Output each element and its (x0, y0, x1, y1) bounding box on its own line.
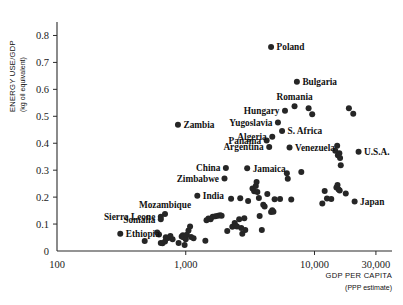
y-axis-title: ENERGY USE/GDP (kg oil equivalent) (8, 40, 27, 112)
data-point (298, 169, 304, 175)
y-ticks-group: 00.10.20.30.40.50.60.70.8 (36, 30, 57, 257)
point-label: Jamaica (253, 164, 286, 174)
data-point (309, 111, 315, 117)
data-point (224, 228, 230, 234)
data-point-labeled (292, 103, 298, 109)
x-axis-title-main: GDP PER CAPITA (325, 271, 392, 280)
y-axis-title-main: ENERGY USE/GDP (8, 40, 17, 112)
point-label: Zambia (183, 120, 214, 130)
data-point (242, 227, 248, 233)
data-point-labeled (356, 149, 362, 155)
data-point-labeled (117, 231, 123, 237)
data-point (337, 155, 343, 161)
y-tick-label: 0.2 (36, 192, 49, 203)
data-point (254, 189, 260, 195)
y-tick-label: 0.7 (36, 57, 49, 68)
y-tick-label: 0 (44, 246, 49, 257)
data-point (202, 238, 208, 244)
data-point (288, 197, 294, 203)
x-ticks-group: 1001,00010,00030,000 (49, 251, 390, 270)
data-point (245, 198, 251, 204)
point-label: Mozambique (139, 200, 191, 210)
data-point-labeled (194, 193, 200, 199)
data-point-labeled (352, 198, 358, 204)
data-point (346, 105, 352, 111)
y-tick-label: 0.8 (36, 30, 49, 41)
point-label: India (203, 191, 225, 201)
data-point (285, 176, 291, 182)
data-point (306, 105, 312, 111)
x-tick-label: 1,000 (174, 259, 198, 270)
data-point-labeled (223, 165, 229, 171)
data-point (343, 191, 349, 197)
data-point-labeled (279, 128, 285, 134)
data-point (236, 216, 242, 222)
data-point-labeled (175, 122, 181, 128)
data-point (262, 204, 268, 210)
point-label: Zimbabwe (177, 174, 219, 184)
energy-gdp-scatter-chart: 00.10.20.30.40.50.60.70.8 1001,00010,000… (0, 0, 403, 305)
point-label: Ethiopia (126, 229, 160, 239)
x-axis-title-sub: (PPP estimate) (345, 284, 392, 292)
data-point (259, 227, 265, 233)
x-axis-title: GDP PER CAPITA (PPP estimate) (325, 271, 392, 292)
point-label: Romania (276, 92, 313, 102)
y-tick-label: 0.5 (36, 111, 49, 122)
data-point (338, 162, 344, 168)
data-point-labeled (222, 176, 228, 182)
data-point (334, 143, 340, 149)
point-label: Somalia (123, 215, 155, 225)
point-label: Japan (360, 197, 385, 207)
point-label: Argentina (223, 142, 264, 152)
data-point-labeled (275, 119, 281, 125)
point-label: China (196, 163, 221, 173)
data-point (219, 213, 225, 219)
data-point (241, 215, 247, 221)
data-point-labeled (266, 144, 272, 150)
data-point-labeled (294, 79, 300, 85)
x-tick-label: 100 (49, 259, 65, 270)
data-point-labeled (158, 216, 164, 222)
data-point (270, 209, 276, 215)
data-point (182, 242, 188, 248)
data-point (228, 196, 234, 202)
data-point (328, 196, 334, 202)
point-label: Yugoslavia (229, 118, 272, 128)
data-point (350, 111, 356, 117)
data-point (257, 213, 263, 219)
x-tick-label: 30,000 (361, 259, 390, 270)
point-label: Hungary (244, 106, 280, 116)
data-point (191, 235, 197, 241)
data-point (237, 195, 243, 201)
y-tick-label: 0.3 (36, 165, 49, 176)
data-point (337, 187, 343, 193)
data-point-labeled (269, 134, 275, 140)
data-point (187, 223, 193, 229)
data-point (170, 236, 176, 242)
data-point (254, 179, 260, 185)
data-point-labeled (268, 44, 274, 50)
y-tick-label: 0.6 (36, 84, 49, 95)
data-point-labeled (244, 165, 250, 171)
x-tick-label: 10,000 (300, 259, 329, 270)
chart-canvas: 00.10.20.30.40.50.60.70.8 1001,00010,000… (0, 0, 403, 305)
point-label: S. Africa (288, 126, 323, 136)
data-point (176, 240, 182, 246)
data-point (277, 196, 283, 202)
point-label: Venezuela (295, 143, 335, 153)
data-point (272, 196, 278, 202)
data-point (264, 191, 270, 197)
y-tick-label: 0.1 (36, 219, 49, 230)
data-point (322, 188, 328, 194)
data-point (256, 195, 262, 201)
point-labels-group: PolandBulgariaRomaniaHungaryYugoslaviaS.… (104, 42, 390, 239)
data-point-labeled (282, 108, 288, 114)
point-label: Bulgaria (302, 77, 337, 87)
data-point-labeled (287, 145, 293, 151)
data-point (319, 201, 325, 207)
y-tick-label: 0.4 (36, 138, 50, 149)
point-label: U.S.A. (364, 147, 390, 157)
point-label: Poland (277, 42, 306, 52)
y-axis-title-sub: (kg oil equivalent) (19, 57, 27, 112)
